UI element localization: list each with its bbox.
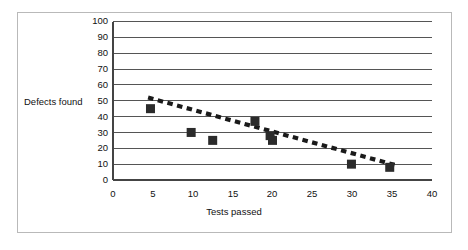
x-tick-label: 40 bbox=[419, 189, 445, 199]
data-point bbox=[250, 117, 259, 126]
y-tick-label: 100 bbox=[82, 16, 108, 26]
data-markers bbox=[146, 104, 394, 172]
y-tick-label: 50 bbox=[82, 96, 108, 106]
y-tick-label: 0 bbox=[82, 175, 108, 185]
x-tick-label: 35 bbox=[379, 189, 405, 199]
y-tick-label: 90 bbox=[82, 32, 108, 42]
y-tick-label: 80 bbox=[82, 48, 108, 58]
x-tick-label: 30 bbox=[339, 189, 365, 199]
y-tick-label: 40 bbox=[82, 112, 108, 122]
x-tick-label: 0 bbox=[100, 189, 126, 199]
x-tick-label: 25 bbox=[299, 189, 325, 199]
x-tick-label: 15 bbox=[220, 189, 246, 199]
data-point bbox=[187, 128, 196, 137]
x-axis-title: Tests passed bbox=[0, 206, 468, 217]
x-tick-label: 5 bbox=[140, 189, 166, 199]
y-tick-label: 10 bbox=[82, 159, 108, 169]
y-tick-label: 70 bbox=[82, 64, 108, 74]
y-axis-title: Defects found bbox=[24, 96, 83, 107]
y-tick-label: 30 bbox=[82, 128, 108, 138]
data-point bbox=[268, 136, 277, 145]
chart-figure: 100 90 80 70 60 50 40 30 20 10 0 0 5 10 … bbox=[0, 0, 468, 250]
x-tick-label: 20 bbox=[259, 189, 285, 199]
data-point bbox=[385, 163, 394, 172]
data-point bbox=[347, 160, 356, 169]
y-tick-label: 20 bbox=[82, 143, 108, 153]
data-point bbox=[146, 104, 155, 113]
y-tick-label: 60 bbox=[82, 80, 108, 90]
x-tick-label: 10 bbox=[180, 189, 206, 199]
data-point bbox=[208, 136, 217, 145]
